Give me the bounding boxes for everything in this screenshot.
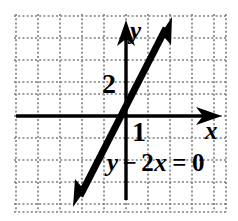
equation-equals-sign: = — [172, 149, 187, 176]
graph-figure: y x 2 1 y−2x=0 — [0, 0, 238, 221]
equation-x-term: x — [154, 149, 167, 176]
y-axis-label: y — [130, 18, 141, 43]
equation-rhs-value: 0 — [192, 149, 205, 176]
equation-coefficient: 2 — [141, 149, 154, 176]
equation-label: y−2x=0 — [107, 150, 205, 175]
line-y-minus-2x — [73, 17, 172, 207]
coordinate-graph — [0, 0, 238, 221]
x-axis-label: x — [205, 118, 218, 143]
x-axis-tick-label: 1 — [132, 118, 146, 146]
equation-minus-sign: − — [123, 149, 138, 176]
equation-y-term: y — [107, 149, 119, 176]
y-axis-tick-label: 2 — [102, 70, 116, 98]
